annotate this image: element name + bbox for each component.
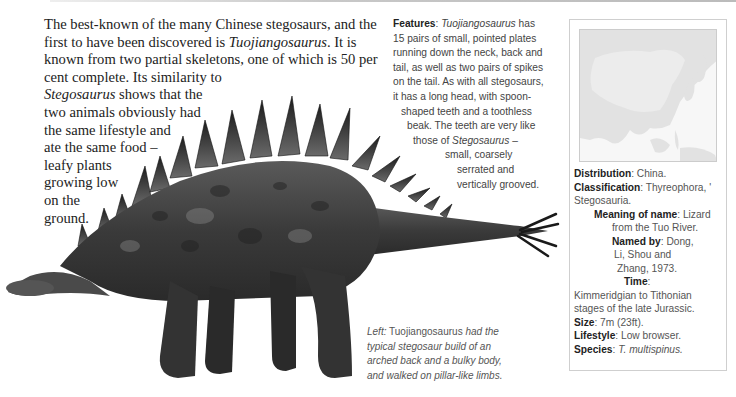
features-line: shaped teeth and a toothless	[401, 106, 532, 117]
fact-value: Thyreophora, '	[646, 182, 711, 193]
fact-label: Named by	[612, 236, 661, 247]
fact-value: from the Tuo River.	[612, 222, 698, 233]
top-rule	[50, 0, 736, 2]
features-line: on the tail. As with all stegosaurs,	[393, 76, 544, 87]
features-line: beak. The teeth are very like	[407, 120, 535, 131]
features-line: has	[516, 18, 535, 29]
fact-label: Time	[624, 276, 648, 287]
features-line: 15 pairs of small, pointed plates	[393, 33, 536, 44]
caption-line: arched back and a bulky body,	[367, 355, 502, 366]
intro-line: known from two partial skeletons, one of…	[44, 51, 378, 67]
distribution-map	[579, 29, 717, 162]
caption-line: Left:	[367, 326, 386, 337]
intro-line: on the	[44, 192, 80, 208]
features-line: –	[509, 135, 518, 146]
genus-name: Tuojiangosaurus	[441, 18, 516, 29]
genus-name: Tuojiangosaurus	[229, 34, 327, 50]
features-line: tail, as well as two pairs of spikes	[393, 62, 543, 73]
fact-label: Classification	[574, 182, 640, 193]
intro-line: the same lifestyle and	[44, 122, 171, 138]
fact-label: Size	[574, 317, 594, 328]
fact-label: Lifestyle	[574, 330, 615, 341]
intro-line: growing low	[44, 174, 118, 190]
genus-name: Stegosaurus	[44, 86, 115, 102]
fact-lifestyle: Lifestyle: Low browser.	[574, 329, 726, 343]
fact-value: China.	[637, 168, 666, 179]
fact-classification: Classification: Thyreophora, '	[574, 181, 726, 195]
fact-box: Distribution: China. Classification: Thy…	[569, 19, 727, 371]
intro-line: ground.	[44, 210, 89, 226]
fact-label: Distribution	[574, 168, 631, 179]
caption-line: and walked on pillar-like limbs.	[367, 370, 502, 381]
intro-line: cent complete. Its similarity to	[44, 69, 222, 85]
caption-line: typical stegosaur build of an	[367, 341, 491, 352]
fact-list: Distribution: China. Classification: Thy…	[574, 167, 726, 356]
fact-time: Time:	[574, 275, 726, 289]
fact-value: Lizard	[683, 209, 711, 220]
features-line: serrated and	[457, 164, 514, 175]
fact-value: 7m (23ft).	[600, 317, 644, 328]
features-line: vertically grooved.	[457, 179, 539, 190]
fact-value: stages of the late Jurassic.	[574, 303, 695, 314]
fact-value: Stegosauria.	[574, 195, 631, 206]
intro-line: . It is	[327, 34, 357, 50]
intro-line: shows that the	[115, 86, 202, 102]
intro-line: The best-known of the many Chinese stego…	[44, 16, 377, 32]
intro-line: leafy plants	[44, 157, 112, 173]
genus-name: Tuojiangosaurus	[386, 326, 462, 337]
fact-label: Meaning of name	[594, 209, 677, 220]
features-line: running down the neck, back and	[393, 47, 543, 58]
intro-line: ate the same food –	[44, 139, 157, 155]
fact-species: Species: T. multispinus.	[574, 343, 726, 357]
intro-paragraph: The best-known of the many Chinese stego…	[44, 16, 344, 227]
features-line: it has a long head, with spoon-	[393, 91, 531, 102]
features-line: small, coarsely	[445, 149, 512, 160]
fact-value: T. multispinus.	[618, 344, 683, 355]
figure-caption: Left: Tuojiangosaurus had the typical st…	[367, 325, 537, 383]
fact-value: Dong,	[666, 236, 693, 247]
fact-named-by: Named by: Dong,	[574, 235, 726, 249]
caption-line: had the	[463, 326, 499, 337]
fact-value: Low browser.	[621, 330, 681, 341]
features-label: Features	[393, 18, 435, 29]
fact-value: Kimmeridgian to Tithonian	[574, 290, 692, 301]
features-paragraph: Features: Tuojiangosaurus has 15 pairs o…	[393, 17, 558, 192]
genus-name: Stegosaurus	[452, 135, 509, 146]
fact-distribution: Distribution: China.	[574, 167, 726, 181]
features-line: those of	[413, 135, 452, 146]
fact-value: Zhang, 1973.	[617, 263, 677, 274]
tail-spikes-icon	[518, 214, 558, 256]
fact-label: Species	[574, 344, 613, 355]
asia-map-icon	[580, 30, 717, 162]
intro-line: first to have been discovered is	[44, 34, 229, 50]
fact-value: Li, Shou and	[614, 249, 671, 260]
intro-line: two animals obviously had	[44, 104, 201, 120]
fact-meaning: Meaning of name: Lizard	[574, 208, 726, 222]
fact-size: Size: 7m (23ft).	[574, 316, 726, 330]
